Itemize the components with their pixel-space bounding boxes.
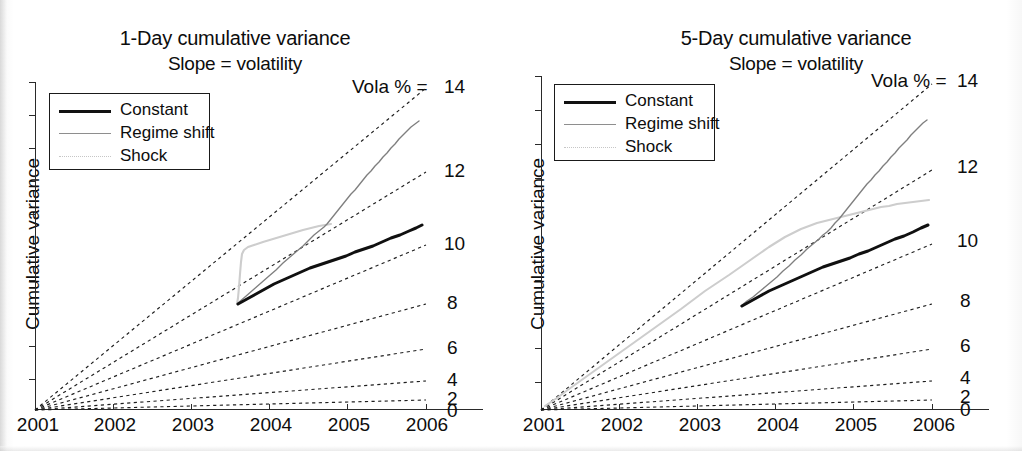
panel-title-line1: 5-Day cumulative variance: [561, 26, 1022, 51]
vola-label-6: 6: [960, 335, 971, 357]
y-tick: [535, 246, 541, 247]
vola-label-8: 8: [960, 290, 971, 312]
vola-label-10: 10: [957, 230, 978, 252]
y-tick: [535, 76, 541, 77]
x-tick: [426, 404, 427, 410]
y-tick: [29, 346, 35, 347]
series-constant-five-day: [742, 225, 928, 306]
x-tick-label-2005: 2005: [309, 414, 389, 436]
legend-swatch-constant-icon: [59, 104, 111, 116]
legend-swatch-regime-shift-icon: [564, 118, 616, 130]
legend-swatch-shock-icon: [59, 150, 111, 162]
fan-line-12: [541, 170, 932, 410]
legend-swatch-shock-icon: [564, 141, 616, 153]
fan-line-8: [541, 304, 932, 410]
vola-label-12: 12: [444, 160, 465, 182]
legend-five-day[interactable]: Constant Regime shift Shock: [554, 84, 715, 161]
fan-line-6: [35, 349, 426, 410]
y-tick: [535, 178, 541, 179]
y-tick: [535, 110, 541, 111]
legend-label-shock: Shock: [120, 147, 167, 164]
vola-label-10: 10: [444, 233, 465, 255]
legend-label-regime-shift: Regime shift: [625, 115, 719, 132]
x-tick-label-2001: 2001: [504, 414, 584, 436]
fan-line-10: [35, 245, 426, 410]
legend-label-shock: Shock: [625, 138, 672, 155]
panel-one-day: 1-Day cumulative variance Slope = volati…: [0, 0, 511, 451]
series-regime-shift-five-day: [741, 120, 927, 306]
y-tick: [535, 144, 541, 145]
fan-line-4: [35, 381, 426, 410]
y-tick: [29, 82, 35, 83]
panel-title-line1: 1-Day cumulative variance: [0, 26, 470, 51]
legend-swatch-constant-icon: [564, 95, 616, 107]
panel-title-line2: Slope = volatility: [561, 51, 1022, 76]
legend-label-regime-shift: Regime shift: [120, 124, 214, 141]
legend-one-day[interactable]: Constant Regime shift Shock: [49, 93, 210, 170]
x-tick-label-2002: 2002: [75, 414, 155, 436]
y-tick: [29, 247, 35, 248]
x-tick: [541, 404, 542, 410]
x-tick: [932, 404, 933, 410]
fan-line-2: [541, 400, 932, 410]
panel-title-line2: Slope = volatility: [0, 51, 470, 76]
legend-item-regime-shift[interactable]: Regime shift: [555, 112, 714, 135]
legend-label-constant: Constant: [625, 92, 693, 109]
y-tick: [29, 214, 35, 215]
legend-swatch-regime-shift-icon: [59, 127, 111, 139]
x-tick-label-2003: 2003: [660, 414, 740, 436]
y-tick: [29, 313, 35, 314]
x-tick: [191, 404, 192, 410]
fan-line-6: [541, 349, 932, 410]
y-tick: [29, 115, 35, 116]
x-tick-label-2003: 2003: [153, 414, 233, 436]
fan-line-8: [35, 304, 426, 410]
legend-item-regime-shift[interactable]: Regime shift: [50, 121, 209, 144]
x-tick-label-2004: 2004: [738, 414, 818, 436]
vola-label-14: 14: [957, 70, 978, 92]
legend-item-shock[interactable]: Shock: [555, 135, 714, 158]
x-tick: [697, 404, 698, 410]
legend-item-shock[interactable]: Shock: [50, 144, 209, 167]
y-tick: [535, 314, 541, 315]
series-regime-shift-one-day: [238, 121, 419, 303]
fan-line-4: [541, 381, 932, 410]
x-tick: [113, 404, 114, 410]
legend-label-constant: Constant: [120, 101, 188, 118]
legend-item-constant[interactable]: Constant: [555, 89, 714, 112]
x-tick: [269, 404, 270, 410]
legend-item-constant[interactable]: Constant: [50, 98, 209, 121]
x-tick-label-2001: 2001: [0, 414, 78, 436]
y-tick: [29, 181, 35, 182]
y-tick: [535, 348, 541, 349]
y-tick: [535, 382, 541, 383]
x-tick: [619, 404, 620, 410]
y-tick: [29, 148, 35, 149]
x-tick: [35, 404, 36, 410]
vola-label-12: 12: [957, 156, 978, 178]
fan-line-2: [35, 400, 426, 410]
panel-title-five-day: 5-Day cumulative variance Slope = volati…: [561, 26, 1022, 76]
x-tick-label-2004: 2004: [231, 414, 311, 436]
vola-label-0: 0: [960, 399, 971, 421]
series-constant-one-day: [238, 225, 422, 304]
fan-line-12: [35, 172, 426, 410]
vola-label-6: 6: [447, 337, 458, 359]
y-tick: [535, 212, 541, 213]
y-tick: [29, 280, 35, 281]
series-shock-five-day: [545, 200, 929, 406]
x-tick-label-2005: 2005: [816, 414, 896, 436]
y-tick: [29, 379, 35, 380]
vola-label-14: 14: [444, 76, 465, 98]
x-tick-label-2002: 2002: [582, 414, 662, 436]
panel-title-one-day: 1-Day cumulative variance Slope = volati…: [0, 26, 470, 76]
vola-label-0: 0: [447, 400, 458, 422]
x-tick: [775, 404, 776, 410]
x-tick: [853, 404, 854, 410]
vola-label-8: 8: [447, 292, 458, 314]
y-tick: [535, 280, 541, 281]
figure-two-panel-cumulative-variance: 1-Day cumulative variance Slope = volati…: [0, 0, 1022, 451]
x-tick: [347, 404, 348, 410]
panel-five-day: 5-Day cumulative variance Slope = volati…: [511, 0, 1022, 451]
